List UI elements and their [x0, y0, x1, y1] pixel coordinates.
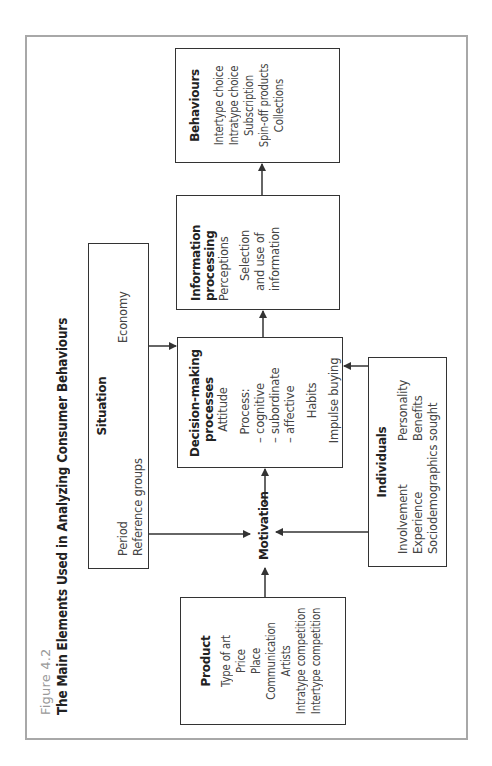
behaviours-item: Collections: [272, 56, 287, 155]
behaviours-item: Spin-off products: [257, 56, 272, 155]
individuals-item: Experience: [411, 445, 426, 554]
individuals-item: Personality: [396, 358, 411, 441]
decision-title-line2: processes: [202, 362, 216, 457]
individuals-title: Individuals: [375, 358, 389, 566]
information-processing-box: Information processing Perceptions Selec…: [176, 195, 340, 310]
product-title: Product: [199, 598, 213, 724]
information-item-selection: information: [268, 200, 283, 301]
behaviours-item: Intertype choice: [212, 56, 227, 155]
situation-item: Period: [116, 458, 131, 556]
decision-item-subordinate: – subordinate: [268, 344, 283, 457]
decision-item-process: Process:: [238, 366, 253, 457]
information-title-line1: Information: [189, 200, 203, 301]
situation-item: Economy: [116, 291, 131, 343]
information-title-line2: processing: [203, 200, 217, 301]
decision-item-cognitive: – cognitive: [253, 344, 268, 457]
individuals-item: Sociodemographics: [426, 445, 441, 554]
individuals-box: Individuals Involvement Experience Socio…: [368, 357, 447, 567]
motivation-label: Motivation: [257, 508, 271, 560]
decision-item-affective: – affective: [283, 344, 298, 457]
decision-item-impulse: Impulse buying: [327, 344, 342, 457]
product-item: Communication: [264, 606, 279, 717]
product-item: Type of art: [219, 606, 234, 717]
individuals-item: Benefits sought: [411, 358, 441, 441]
product-item: Price: [234, 606, 249, 717]
information-item-selection: and use of: [253, 200, 268, 301]
product-item: Artists: [279, 606, 294, 717]
information-item-selection: Selection: [238, 200, 253, 301]
individuals-item: Involvement: [396, 445, 411, 554]
product-item: Place: [249, 606, 264, 717]
decision-making-box: Decision-making processes Attitude Proce…: [177, 337, 343, 468]
decision-item-attitude: Attitude: [216, 362, 231, 457]
situation-item: Reference groups: [131, 458, 146, 556]
behaviours-item: Intratype choice: [227, 56, 242, 155]
behaviours-box: Behaviours Intertype choice Intratype ch…: [175, 48, 340, 163]
situation-title: Situation: [95, 244, 109, 568]
decision-title-line1: Decision-making: [188, 344, 202, 457]
behaviours-item: Subscription: [242, 56, 257, 155]
decision-item-habits: Habits: [305, 344, 320, 457]
figure-stage: Figure 4.2 The Main Elements Used in Ana…: [0, 0, 492, 766]
product-item: Intertype competition: [309, 606, 324, 717]
behaviours-title: Behaviours: [188, 49, 202, 162]
information-item-perceptions: Perceptions: [217, 200, 232, 301]
situation-box: Situation Period Reference groups Econom…: [88, 243, 149, 569]
product-box: Product Type of art Price Place Communic…: [180, 597, 346, 725]
product-item: Intratype competition: [294, 606, 309, 717]
